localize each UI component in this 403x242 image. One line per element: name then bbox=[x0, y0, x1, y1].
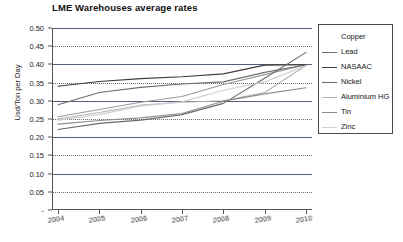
y-axis-tick-label: 0.15 bbox=[29, 151, 44, 160]
legend-label: Aluminium HG bbox=[341, 93, 389, 101]
x-axis-tick-label: 2010 bbox=[295, 213, 313, 224]
legend-item[interactable]: NASAAC bbox=[319, 59, 394, 74]
y-axis-tick-label: 0.45 bbox=[29, 42, 44, 51]
y-axis-tick-label: 0.10 bbox=[29, 169, 44, 178]
legend-item[interactable]: Aluminium HG bbox=[319, 89, 394, 104]
legend-label: NASAAC bbox=[341, 63, 372, 71]
x-axis-tick-label: 2005 bbox=[88, 213, 106, 224]
y-axis-ticks: -0.050.100.150.200.250.300.350.400.450.5… bbox=[0, 28, 48, 210]
legend-item[interactable]: Nickel bbox=[319, 74, 394, 89]
x-axis-tick-label: 2004 bbox=[47, 213, 65, 224]
series-line bbox=[58, 52, 306, 129]
chart-container: LME Warehouses average rates Usd/Ton per… bbox=[0, 0, 403, 242]
x-axis-tick-label: 2007 bbox=[171, 213, 189, 224]
legend-item[interactable]: Lead bbox=[319, 44, 394, 59]
series-line bbox=[58, 65, 306, 105]
legend-item[interactable]: Zinc bbox=[319, 119, 394, 134]
y-axis-tick-label: 0.35 bbox=[29, 78, 44, 87]
y-axis-tick-label: 0.40 bbox=[29, 60, 44, 69]
y-axis-tick-label: 0.05 bbox=[29, 187, 44, 196]
legend-label: Tin bbox=[341, 108, 351, 116]
chart-legend: CopperLeadNASAACNickelAluminium HGTinZin… bbox=[318, 24, 393, 134]
legend-item[interactable]: Copper bbox=[319, 29, 394, 44]
y-axis-tick-label: - bbox=[42, 206, 45, 215]
legend-label: Lead bbox=[341, 48, 358, 56]
x-axis-tick-label: 2006 bbox=[130, 213, 148, 224]
series-lines bbox=[52, 28, 312, 210]
x-axis-tick-label: 2009 bbox=[254, 213, 272, 224]
chart-title: LME Warehouses average rates bbox=[52, 2, 198, 13]
x-axis-tick-label: 2008 bbox=[212, 213, 230, 224]
y-axis-tick-label: 0.25 bbox=[29, 115, 44, 124]
y-axis-tick-label: 0.50 bbox=[29, 24, 44, 33]
series-line bbox=[58, 65, 306, 117]
legend-label: Nickel bbox=[341, 78, 361, 86]
legend-label: Copper bbox=[341, 33, 366, 41]
y-axis-tick-label: 0.20 bbox=[29, 133, 44, 142]
plot-area: 2004200520062007200820092010 bbox=[52, 28, 312, 210]
legend-item[interactable]: Tin bbox=[319, 104, 394, 119]
y-axis-tick-label: 0.30 bbox=[29, 96, 44, 105]
legend-label: Zinc bbox=[341, 123, 355, 131]
